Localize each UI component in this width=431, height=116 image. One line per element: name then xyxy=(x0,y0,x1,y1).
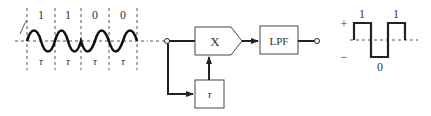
delay-branch-wire xyxy=(168,44,193,95)
plus-label: + xyxy=(341,17,348,31)
leader-mark xyxy=(20,20,27,34)
interval-label: τ xyxy=(93,55,98,67)
input-bit-label: 1 xyxy=(38,8,44,22)
interval-label: τ xyxy=(39,55,44,67)
output-bit-label: 0 xyxy=(377,60,383,74)
input-terminal xyxy=(165,39,170,44)
differential-phase-detector-diagram: 1 1 0 0 τ τ τ τ X τ LPF + − 1 0 xyxy=(0,0,431,116)
output-waveform xyxy=(350,23,418,57)
input-bit-label: 1 xyxy=(65,8,71,22)
output-bit-label: 1 xyxy=(359,7,365,21)
interval-label: τ xyxy=(66,55,71,67)
multiplier-label: X xyxy=(210,34,220,49)
input-bit-label: 0 xyxy=(120,8,126,22)
block-diagram xyxy=(150,26,320,108)
output-square-wave xyxy=(354,23,405,57)
minus-label: − xyxy=(341,50,348,64)
input-bit-label: 0 xyxy=(92,8,98,22)
output-terminal xyxy=(315,39,320,44)
output-bit-label: 1 xyxy=(393,7,399,21)
interval-label: τ xyxy=(121,55,126,67)
lpf-label: LPF xyxy=(270,35,289,47)
modulated-sinusoid xyxy=(27,31,137,52)
input-waveform xyxy=(15,8,148,70)
